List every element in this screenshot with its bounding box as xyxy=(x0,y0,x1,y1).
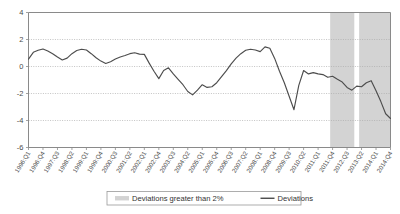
legend-label-2: Deviations xyxy=(278,194,314,203)
chart-figure: 420-2-4-6 1996:Q11996:Q41997:Q31998:Q219… xyxy=(0,0,400,214)
deviation-band-1 xyxy=(330,13,354,148)
legend-swatch-band xyxy=(115,196,129,200)
y-tick-label: -4 xyxy=(17,116,24,125)
y-tick-label: 2 xyxy=(19,35,23,44)
deviation-band-2 xyxy=(359,13,390,148)
legend-label-1: Deviations greater than 2% xyxy=(132,194,224,203)
y-tick-label: -2 xyxy=(17,89,24,98)
y-tick-label: 0 xyxy=(19,62,23,71)
deviations-line-chart: 420-2-4-6 1996:Q11996:Q41997:Q31998:Q219… xyxy=(0,0,400,214)
y-tick-label: 4 xyxy=(19,8,23,17)
y-axis-ticks: 420-2-4-6 xyxy=(17,8,29,152)
x-axis-ticks: 1996:Q11996:Q41997:Q31998:Q21999:Q11999:… xyxy=(13,148,394,174)
y-tick-label: -6 xyxy=(17,143,24,152)
chart-legend: Deviations greater than 2%Deviations xyxy=(107,192,313,206)
